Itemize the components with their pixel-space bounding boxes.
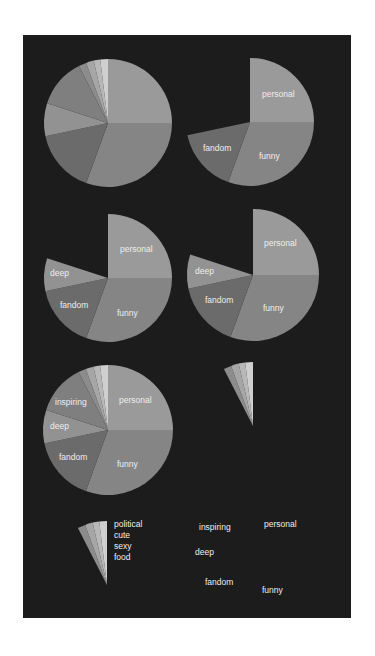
pie-partial-4b: personal funny fandom deep [187, 209, 319, 341]
slice-personal [108, 59, 172, 123]
label-personal: personal [264, 519, 297, 529]
label-fandom: fandom [205, 295, 233, 305]
wedge-with-legend: political cute sexy food [78, 519, 143, 585]
labels-only: inspiring personal deep fandom funny [195, 519, 297, 595]
label-funny: funny [263, 303, 285, 313]
label-deep: deep [50, 421, 69, 431]
label-fandom: fandom [203, 143, 231, 153]
label-personal: personal [119, 395, 152, 405]
label-deep: deep [50, 268, 69, 278]
label-fandom: fandom [59, 452, 87, 462]
pie-charts: personal funny fandom personal funny fan… [0, 0, 375, 656]
label-personal: personal [264, 238, 297, 248]
pie-partial-4a: personal funny fandom deep [44, 214, 172, 342]
legend-political: political [114, 519, 142, 529]
label-fandom: fandom [60, 300, 88, 310]
label-funny: funny [117, 459, 139, 469]
pie-partial-3: personal funny fandom [187, 58, 314, 186]
wedge-small-slices [224, 362, 253, 426]
label-deep: deep [195, 266, 214, 276]
label-personal: personal [120, 244, 153, 254]
legend-food: food [114, 552, 131, 562]
label-personal: personal [262, 89, 295, 99]
label-deep: deep [195, 547, 214, 557]
label-fandom: fandom [205, 577, 233, 587]
pie-full-labeled: personal funny fandom deep inspiring [43, 365, 173, 495]
label-funny: funny [117, 308, 139, 318]
legend-sexy: sexy [114, 541, 132, 551]
label-funny: funny [259, 151, 281, 161]
pie-full-unlabeled [44, 59, 172, 187]
label-inspiring: inspiring [55, 397, 87, 407]
label-funny: funny [262, 585, 284, 595]
label-inspiring: inspiring [199, 522, 231, 532]
legend-cute: cute [114, 530, 130, 540]
